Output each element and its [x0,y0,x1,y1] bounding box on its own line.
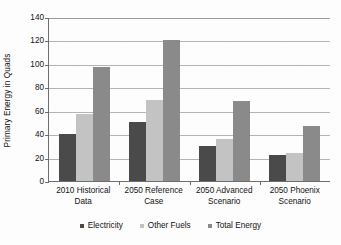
y-axis-tick-label: 100 [18,61,44,69]
y-axis-tick-labels: 020406080100120140 [18,0,44,245]
plot-area [48,18,330,182]
y-axis-tick-label: 120 [18,37,44,45]
y-axis-tick-label: 0 [18,178,44,186]
bar [233,101,250,181]
y-axis-tick-label: 140 [18,14,44,22]
x-axis-category-label: 2050 Phoenix Scenario [260,186,331,216]
bar [59,134,76,181]
legend-item: Electricity [80,222,123,230]
bar [199,146,216,181]
y-axis-tick-label: 60 [18,108,44,116]
chart-legend: ElectricityOther FuelsTotal Energy [0,222,341,230]
bar [286,153,303,181]
bar-group [260,18,330,181]
y-axis-title-text: Primary Energy in Quads [4,53,13,147]
bar-group [119,18,189,181]
bar [146,100,163,181]
x-axis-category-label: 2050 Advanced Scenario [189,186,260,216]
y-axis-tick-mark [45,182,49,183]
bar [129,122,146,181]
legend-item: Total Energy [208,222,262,230]
bar [163,40,180,181]
bar [216,139,233,181]
bar-groups [49,18,330,181]
x-axis-tick-mark [119,181,120,185]
x-axis-tick-mark [260,181,261,185]
legend-item: Other Fuels [140,222,191,230]
legend-label: Total Energy [216,222,262,230]
legend-swatch-icon [140,224,145,229]
bar-chart-figure: Primary Energy in Quads 0204060801001201… [0,0,341,245]
bar-group [190,18,260,181]
legend-label: Other Fuels [148,222,191,230]
x-axis-category-label: 2010 Historical Data [48,186,119,216]
bar [93,67,110,181]
legend-swatch-icon [80,224,85,229]
y-axis-tick-label: 80 [18,84,44,92]
y-axis-title: Primary Energy in Quads [0,18,16,182]
bar [303,126,320,181]
bar [76,114,93,181]
bar [269,155,286,181]
x-axis-category-label: 2050 Reference Case [119,186,190,216]
legend-label: Electricity [88,222,123,230]
y-axis-tick-label: 20 [18,154,44,162]
bar-group [49,18,119,181]
legend-swatch-icon [208,224,213,229]
x-axis-category-labels: 2010 Historical Data2050 Reference Case2… [48,186,330,216]
x-axis-tick-mark [190,181,191,185]
y-axis-tick-label: 40 [18,131,44,139]
